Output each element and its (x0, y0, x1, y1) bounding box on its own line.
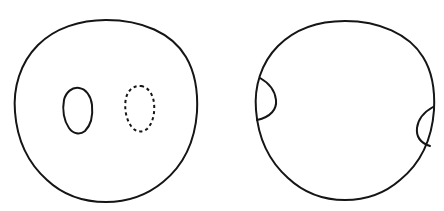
left-panel (15, 20, 198, 202)
left-boundary-lens-arc (257, 78, 276, 120)
interior-solid-ellipse (63, 88, 92, 134)
right-panel (256, 21, 435, 200)
diagram-canvas (0, 0, 444, 211)
right-boundary-lens-arc (417, 107, 433, 146)
left-disk-boundary (15, 20, 198, 202)
right-disk-boundary (256, 21, 435, 200)
interior-dashed-ellipse (125, 86, 154, 132)
figure-root: Two disks with marked curves (0, 0, 444, 211)
